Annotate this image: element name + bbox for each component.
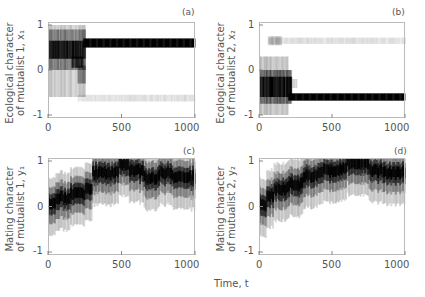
- ytick: -1: [244, 109, 254, 120]
- ytick: 0: [248, 201, 254, 212]
- xtick: 0: [45, 122, 51, 133]
- ylabel-line1: Mating character: [215, 154, 226, 264]
- density-layer: [259, 36, 406, 115]
- heatmap-plot-b: [259, 22, 405, 118]
- x-axis-title: Time, t: [214, 278, 249, 289]
- xtick: 500: [322, 259, 341, 270]
- ytick: -1: [33, 109, 43, 120]
- xtick: 1000: [384, 122, 409, 133]
- xtick: 1000: [174, 259, 199, 270]
- ytick: 1: [248, 155, 254, 166]
- heatmap-plot-c: [48, 158, 195, 255]
- xtick: 1000: [384, 259, 409, 270]
- ylabel-line2: of mutualist 2, x₂: [226, 18, 237, 128]
- heatmap-plot-a: [48, 22, 195, 118]
- panel-d-ylabel: Mating character of mutualist 2, y₂: [215, 154, 237, 264]
- panel-c-ylabel: Mating character of mutualist 1, y₁: [4, 154, 26, 264]
- xtick: 500: [112, 259, 131, 270]
- ytick: 1: [37, 19, 43, 30]
- panel-label: (b): [392, 7, 405, 17]
- ylabel-line2: of mutualist 2, y₂: [226, 154, 237, 264]
- ylabel-line1: Ecological character: [4, 18, 15, 128]
- ylabel-line1: Ecological character: [215, 18, 226, 128]
- density-layer: [48, 159, 195, 236]
- panel-label: (a): [182, 7, 195, 17]
- panel-b-ylabel: Ecological character of mutualist 2, x₂: [215, 18, 237, 128]
- ytick: 0: [37, 201, 43, 212]
- xtick: 0: [256, 122, 262, 133]
- panel-a-ylabel: Ecological character of mutualist 1, x₁: [4, 18, 26, 128]
- ytick: 1: [37, 155, 43, 166]
- xtick: 0: [256, 259, 262, 270]
- panel-label: (d): [394, 146, 407, 156]
- xtick: 500: [322, 122, 341, 133]
- heatmap-plot-d: [259, 158, 405, 255]
- density-layer: [48, 25, 195, 102]
- ytick: -1: [244, 245, 254, 256]
- ylabel-line1: Mating character: [4, 154, 15, 264]
- ytick: -1: [33, 245, 43, 256]
- density-layer: [259, 159, 405, 238]
- ytick: 0: [248, 64, 254, 75]
- xtick: 500: [112, 122, 131, 133]
- panel-label: (c): [183, 146, 195, 156]
- ytick: 0: [37, 64, 43, 75]
- xtick: 0: [45, 259, 51, 270]
- ylabel-line2: of mutualist 1, x₁: [15, 18, 26, 128]
- ytick: 1: [248, 19, 254, 30]
- ylabel-line2: of mutualist 1, y₁: [15, 154, 26, 264]
- xtick: 1000: [174, 122, 199, 133]
